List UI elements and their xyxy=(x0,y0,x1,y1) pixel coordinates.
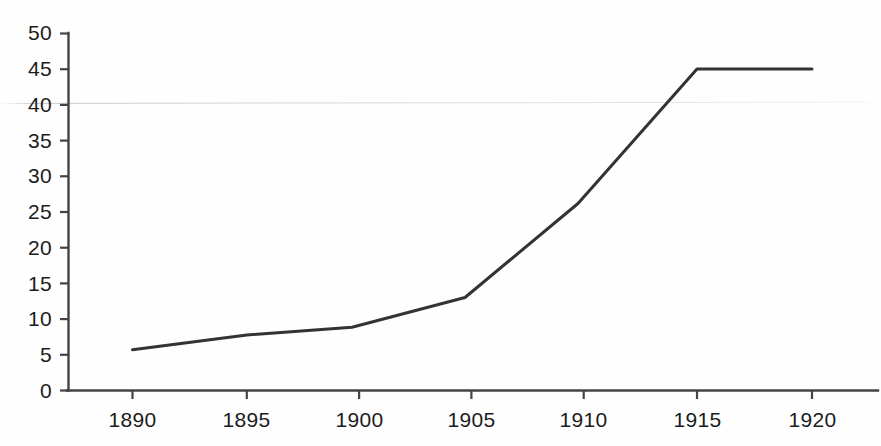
x-tick-label: 1920 xyxy=(762,409,863,430)
line-chart: 50 45 40 35 30 25 20 15 10 5 0 1890 1895… xyxy=(0,0,881,446)
y-tick-label: 0 xyxy=(0,380,52,401)
x-tick-label: 1915 xyxy=(647,409,748,430)
x-tick-label: 1890 xyxy=(82,409,183,430)
y-tick-label: 10 xyxy=(0,308,52,329)
y-tick-label: 30 xyxy=(0,165,52,186)
data-series-line xyxy=(133,69,813,350)
y-tick-label: 15 xyxy=(0,273,52,294)
y-tick-label: 45 xyxy=(0,58,52,79)
x-tick-label: 1895 xyxy=(196,409,297,430)
y-tick-label: 40 xyxy=(0,94,52,115)
x-tick-label: 1900 xyxy=(309,409,410,430)
plot-area xyxy=(0,0,881,446)
y-tick-label: 5 xyxy=(0,344,52,365)
y-tick-label: 50 xyxy=(0,22,52,43)
y-axis-ticks xyxy=(60,34,68,391)
x-tick-label: 1910 xyxy=(533,409,634,430)
x-tick-label: 1905 xyxy=(421,409,522,430)
y-tick-label: 35 xyxy=(0,130,52,151)
x-axis-ticks xyxy=(133,391,813,399)
y-tick-label: 20 xyxy=(0,237,52,258)
y-tick-label: 25 xyxy=(0,201,52,222)
